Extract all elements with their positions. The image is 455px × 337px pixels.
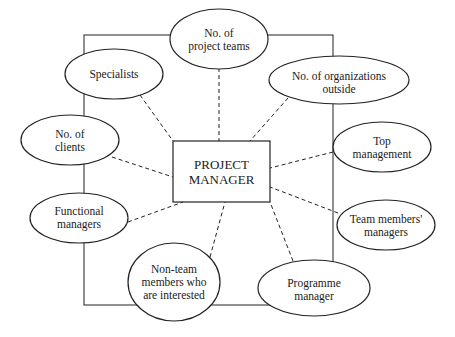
svg-text:Functional: Functional <box>54 205 103 217</box>
stakeholder-diagram: PROJECT MANAGER No. of project teams Spe… <box>0 0 455 337</box>
svg-text:clients: clients <box>55 141 86 153</box>
connector-functional-managers <box>128 202 183 222</box>
svg-text:No. of: No. of <box>204 27 234 39</box>
connector-top-management <box>270 152 333 168</box>
svg-text:outside: outside <box>322 83 355 95</box>
node-programme-manager: Programme manager <box>258 260 370 316</box>
node-clients: No. of clients <box>21 115 119 165</box>
svg-text:project teams: project teams <box>188 40 250 53</box>
node-organizations-outside: No. of organizations outside <box>269 56 409 104</box>
center-label-line1: PROJECT <box>194 157 249 172</box>
connector-non-team-members <box>210 202 225 257</box>
svg-text:Non-team: Non-team <box>151 263 197 275</box>
svg-text:No. of: No. of <box>55 128 85 140</box>
node-non-team-members: Non-team members who are interested <box>128 243 220 321</box>
svg-text:are interested: are interested <box>143 289 205 301</box>
connector-clients <box>112 157 173 177</box>
project-manager-box: PROJECT MANAGER <box>173 141 270 202</box>
connector-programme-manager <box>270 202 293 261</box>
svg-text:members who: members who <box>142 276 207 288</box>
center-label-line2: MANAGER <box>189 172 255 187</box>
svg-text:No. of organizations: No. of organizations <box>292 70 387 83</box>
connector-team-members-managers <box>270 187 338 213</box>
svg-text:Specialists: Specialists <box>89 68 139 81</box>
node-top-management: Top management <box>333 122 431 172</box>
svg-text:manager: manager <box>294 290 334 303</box>
node-project-teams: No. of project teams <box>170 9 268 69</box>
svg-text:Team members': Team members' <box>350 213 422 225</box>
node-specialists: Specialists <box>65 49 163 99</box>
svg-text:Top: Top <box>373 135 391 148</box>
svg-text:managers: managers <box>57 218 102 231</box>
svg-text:Programme: Programme <box>287 277 341 290</box>
node-team-members-managers: Team members' managers <box>337 200 435 250</box>
node-functional-managers: Functional managers <box>30 193 128 243</box>
connector-organizations <box>250 98 288 141</box>
svg-text:management: management <box>353 148 413 161</box>
connector-specialists <box>140 95 173 141</box>
svg-text:managers: managers <box>364 226 409 239</box>
